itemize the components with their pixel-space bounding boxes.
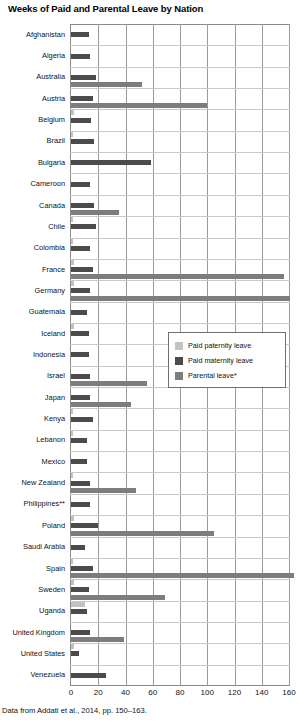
bar-maternity — [71, 651, 79, 656]
bar-maternity — [71, 630, 90, 635]
bar-maternity — [71, 139, 94, 144]
source-note: Data from Addati et al., 2014, pp. 150–1… — [2, 706, 147, 715]
bar-parental — [71, 82, 142, 87]
legend-label-parental: Parental leave* — [188, 371, 237, 380]
bar-group — [70, 622, 290, 643]
y-label-australia: Australia — [0, 73, 65, 81]
y-label-iceland: Iceland — [0, 330, 65, 338]
legend-label-paternity: Paid paternity leave — [188, 341, 251, 350]
bar-paternity — [71, 473, 73, 478]
bar-parental — [71, 402, 131, 407]
bar-maternity — [71, 459, 87, 464]
bar-group — [70, 302, 290, 323]
bar-paternity — [71, 281, 74, 286]
y-label-afghanistan: Afghanistan — [0, 31, 65, 39]
bar-maternity — [71, 673, 106, 678]
y-label-austria: Austria — [0, 95, 65, 103]
bar-maternity — [71, 374, 90, 379]
bar-group — [70, 173, 290, 194]
x-tick-80: 80 — [168, 688, 192, 697]
bar-maternity — [71, 310, 87, 315]
y-label-bulgaria: Bulgaria — [0, 159, 65, 167]
bar-paternity — [71, 644, 74, 649]
bar-group — [70, 131, 290, 152]
bar-maternity — [71, 609, 87, 614]
bar-parental — [71, 296, 290, 301]
legend-swatch-paternity-icon — [175, 342, 183, 350]
legend-item-maternity: Paid maternity leave — [175, 353, 279, 368]
chart-legend: Paid paternity leave Paid maternity leav… — [168, 332, 286, 388]
bar-maternity — [71, 267, 93, 272]
bar-parental — [71, 381, 147, 386]
bar-maternity — [71, 395, 90, 400]
bar-paternity — [71, 409, 73, 414]
bar-group — [70, 537, 290, 558]
bar-parental — [71, 274, 284, 279]
legend-swatch-maternity-icon — [175, 357, 183, 365]
bar-group — [70, 430, 290, 451]
bar-maternity — [71, 246, 90, 251]
y-label-algeria: Algeria — [0, 52, 65, 60]
x-tick-20: 20 — [86, 688, 110, 697]
y-label-uganda: Uganda — [0, 607, 65, 615]
bar-paternity — [71, 110, 74, 115]
bar-parental — [71, 573, 294, 578]
bar-maternity — [71, 118, 91, 123]
bar-parental — [71, 210, 119, 215]
bar-paternity — [71, 239, 73, 244]
bar-group — [70, 387, 290, 408]
legend-item-paternity: Paid paternity leave — [175, 338, 279, 353]
y-label-israel: Israel — [0, 372, 65, 380]
y-label-philippines: Philippines** — [0, 500, 65, 508]
y-label-cameroon: Cameroon — [0, 180, 65, 188]
bar-maternity — [71, 96, 93, 101]
legend-swatch-parental-icon — [175, 372, 183, 380]
bar-group — [70, 515, 290, 536]
bar-group — [70, 643, 290, 664]
x-axis-tick-labels: 020406080100120140160 — [0, 688, 298, 702]
y-label-kenya: Kenya — [0, 415, 65, 423]
y-label-saudi-arabia: Saudi Arabia — [0, 543, 65, 551]
x-tick-120: 120 — [223, 688, 247, 697]
bar-maternity — [71, 331, 89, 336]
bar-group — [70, 216, 290, 237]
bar-maternity — [71, 502, 90, 507]
y-label-sweden: Sweden — [0, 586, 65, 594]
bar-paternity — [71, 559, 73, 564]
bar-paternity — [71, 431, 73, 436]
bar-maternity — [71, 545, 85, 550]
bar-paternity — [71, 132, 73, 137]
bar-maternity — [71, 182, 90, 187]
bar-maternity — [71, 587, 89, 592]
bar-group — [70, 472, 290, 493]
bar-group — [70, 109, 290, 130]
bar-maternity — [71, 566, 93, 571]
y-label-mexico: Mexico — [0, 458, 65, 466]
bar-maternity — [71, 481, 90, 486]
bar-maternity — [71, 203, 94, 208]
x-tick-160: 160 — [277, 688, 298, 697]
bar-group — [70, 152, 290, 173]
bar-parental — [71, 595, 165, 600]
bar-parental — [71, 103, 207, 108]
legend-label-maternity: Paid maternity leave — [188, 356, 253, 365]
bar-group — [70, 451, 290, 472]
bar-paternity — [71, 260, 74, 265]
y-label-japan: Japan — [0, 394, 65, 402]
y-label-belgium: Belgium — [0, 116, 65, 124]
bar-group — [70, 558, 290, 579]
y-axis-category-labels: AfghanistanAlgeriaAustraliaAustriaBelgiu… — [0, 24, 68, 686]
y-label-guatemala: Guatemala — [0, 308, 65, 316]
bar-group — [70, 88, 290, 109]
bar-paternity — [71, 516, 74, 521]
bar-maternity — [71, 160, 151, 165]
y-label-venezuela: Venezuela — [0, 671, 65, 679]
x-tick-40: 40 — [114, 688, 138, 697]
y-label-united-kingdom: United Kingdom — [0, 629, 65, 637]
x-tick-60: 60 — [141, 688, 165, 697]
y-label-new-zealand: New Zealand — [0, 479, 65, 487]
bar-group — [70, 494, 290, 515]
y-label-chile: Chile — [0, 223, 65, 231]
bar-maternity — [71, 224, 96, 229]
bar-maternity — [71, 352, 89, 357]
